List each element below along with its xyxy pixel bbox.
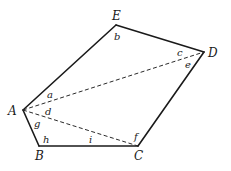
edge-CD <box>138 52 204 146</box>
angle-labels: abcdefghi <box>34 31 191 145</box>
vertex-label-D: D <box>207 46 218 60</box>
angle-label-f: f <box>133 131 140 142</box>
angle-label-e: e <box>185 59 191 70</box>
angle-label-c: c <box>177 47 183 58</box>
edge-EA <box>23 25 116 110</box>
vertex-label-B: B <box>34 149 44 163</box>
pentagon-edges <box>23 25 204 146</box>
edge-DE <box>116 25 204 52</box>
angle-label-h: h <box>43 134 49 145</box>
vertex-label-A: A <box>7 104 17 118</box>
pentagon-diagram: ABCDE abcdefghi <box>0 0 231 171</box>
vertex-labels: ABCDE <box>7 9 218 163</box>
angle-label-g: g <box>34 118 40 129</box>
angle-label-d: d <box>45 106 51 117</box>
angle-label-i: i <box>89 134 92 145</box>
diagonal-AD <box>23 52 204 110</box>
vertex-label-C: C <box>134 149 143 163</box>
vertex-label-E: E <box>111 9 121 23</box>
angle-label-b: b <box>114 31 120 42</box>
angle-label-a: a <box>47 89 53 100</box>
